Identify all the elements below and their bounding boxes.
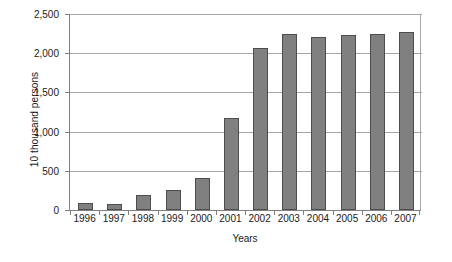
- bar-2004: [311, 37, 326, 210]
- bar-series: [71, 14, 421, 210]
- y-axis-tick-label: 1,000: [34, 126, 59, 137]
- x-axis-tick-label: 1997: [99, 213, 128, 224]
- bar-slot: [363, 14, 392, 210]
- y-axis-ticks: 05001,0001,5002,0002,500: [0, 0, 69, 220]
- bar-1998: [136, 195, 151, 210]
- bar-2003: [282, 34, 297, 210]
- x-axis-tick-label: 2006: [362, 213, 391, 224]
- bar-slot: [159, 14, 188, 210]
- x-axis-tick-label: 2004: [303, 213, 332, 224]
- plot-wrap: [69, 14, 421, 211]
- x-axis-tick-label: 2003: [274, 213, 303, 224]
- x-axis-tick-label: 1998: [128, 213, 157, 224]
- plot-area: [69, 14, 421, 211]
- x-axis-tick-label: 1999: [158, 213, 187, 224]
- bar-chart: 10 thousand persons 05001,0001,5002,0002…: [0, 0, 452, 262]
- y-axis-tick-label: 2,000: [34, 48, 59, 59]
- bar-1996: [78, 203, 93, 210]
- x-axis-tick-label: 2005: [333, 213, 362, 224]
- x-axis-ticks: 1996199719981999200020012002200320042005…: [70, 213, 420, 224]
- x-axis-tick-label: 2007: [391, 213, 420, 224]
- bar-1999: [166, 190, 181, 210]
- y-axis-tick-label: 1,500: [34, 87, 59, 98]
- y-axis-tick-label: 500: [42, 165, 59, 176]
- bar-2005: [341, 35, 356, 210]
- bar-slot: [304, 14, 333, 210]
- bar-slot: [392, 14, 421, 210]
- bar-slot: [334, 14, 363, 210]
- x-axis-tick-label: 2001: [216, 213, 245, 224]
- bar-2007: [399, 32, 414, 210]
- bar-slot: [217, 14, 246, 210]
- bar-2001: [224, 118, 239, 210]
- x-axis-title: Years: [70, 233, 420, 244]
- x-axis-tick-label: 1996: [70, 213, 99, 224]
- bar-2002: [253, 48, 268, 210]
- bar-slot: [246, 14, 275, 210]
- bar-slot: [275, 14, 304, 210]
- y-axis-tick-label: 0: [53, 205, 59, 216]
- bar-2000: [195, 178, 210, 210]
- x-axis-tick-label: 2000: [187, 213, 216, 224]
- x-axis-tick-label: 2002: [245, 213, 274, 224]
- bar-2006: [370, 34, 385, 210]
- bar-1997: [107, 204, 122, 210]
- bar-slot: [129, 14, 158, 210]
- y-axis-tick-label: 2,500: [34, 9, 59, 20]
- bar-slot: [100, 14, 129, 210]
- bar-slot: [71, 14, 100, 210]
- bar-slot: [188, 14, 217, 210]
